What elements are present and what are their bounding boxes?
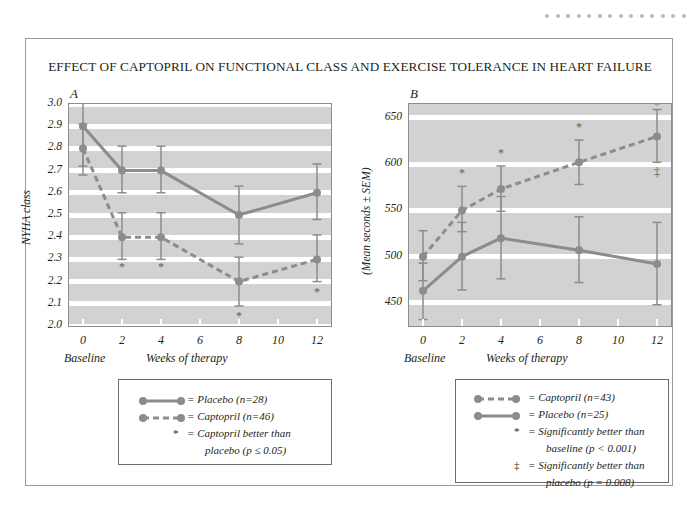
legend-key-ddagger: ‡ <box>514 459 520 471</box>
series-captopril <box>419 110 662 281</box>
x-tick-label: 2 <box>107 333 137 348</box>
legend-key-asterisk: * <box>514 425 520 437</box>
significance-marker: * <box>153 261 169 273</box>
y-tick-label: 2.9 <box>26 118 62 130</box>
x-tick-label: 12 <box>302 333 332 348</box>
significance-marker: * <box>309 286 325 298</box>
decor-dot <box>556 14 560 18</box>
decorative-dot-row <box>545 14 686 18</box>
legend-key-dashed <box>139 412 189 424</box>
series-line <box>423 238 657 291</box>
legend-key-solid <box>139 395 189 407</box>
x-tick <box>422 319 424 326</box>
significance-marker: * <box>649 103 665 111</box>
data-point <box>653 260 661 268</box>
decor-dot <box>629 14 633 18</box>
data-point <box>419 287 427 295</box>
data-point <box>497 234 505 242</box>
x-tick-label: 0 <box>68 333 98 348</box>
x-tick <box>617 319 619 326</box>
plot-area-b: ****‡ <box>408 103 672 327</box>
x-tick-label: 4 <box>146 333 176 348</box>
decor-dot <box>640 14 644 18</box>
x-tick-label: 10 <box>603 333 633 348</box>
y-tick-label: 650 <box>366 110 402 122</box>
significance-marker: * <box>571 121 587 133</box>
data-point <box>157 167 165 175</box>
y-axis-title: NYHA class <box>20 190 32 245</box>
x-tick-label: 0 <box>408 333 438 348</box>
y-tick-label: 3.0 <box>26 96 62 108</box>
x-tick <box>461 319 463 326</box>
panel-letter-a: A <box>70 86 78 102</box>
legend-key-asterisk: * <box>173 427 179 439</box>
significance-marker: * <box>454 167 470 179</box>
data-point <box>118 233 126 241</box>
legend-entry-text: = Captopril (n=46) <box>187 410 274 422</box>
decor-dot <box>619 14 623 18</box>
legend-entry-text: = Captopril better than <box>187 427 291 439</box>
x-tick-label: 10 <box>263 333 293 348</box>
data-point <box>575 158 583 166</box>
x-tick <box>500 319 502 326</box>
significance-marker: * <box>493 147 509 159</box>
y-tick-label: 2.8 <box>26 140 62 152</box>
plot-area-a: **** <box>68 103 332 327</box>
y-tick-label: 2.3 <box>26 251 62 263</box>
x-tick <box>277 319 279 326</box>
data-point <box>313 255 321 263</box>
y-axis-title: (Mean seconds ± SEM) <box>360 167 372 275</box>
x-tick-label: 6 <box>185 333 215 348</box>
baseline-label: Baseline <box>64 351 105 366</box>
x-tick <box>238 319 240 326</box>
data-point <box>653 132 661 140</box>
legend-entry-text: = Placebo (n=25) <box>528 408 608 420</box>
decor-dot <box>671 14 675 18</box>
decor-dot <box>682 14 686 18</box>
legend-entry-text: = Placebo (n=28) <box>187 393 267 405</box>
legend-key-solid <box>474 410 524 422</box>
x-axis-title: Weeks of therapy <box>486 351 568 366</box>
x-tick-label: 8 <box>564 333 594 348</box>
decor-dot <box>608 14 612 18</box>
x-tick-label: 8 <box>224 333 254 348</box>
legend-b: = Captopril (n=43)= Placebo (n=25)= Sign… <box>455 379 669 483</box>
x-tick <box>121 319 123 326</box>
series-layer <box>409 104 671 326</box>
decor-dot <box>545 14 549 18</box>
x-tick-label: 12 <box>642 333 672 348</box>
x-tick-label: 4 <box>486 333 516 348</box>
data-point <box>419 253 427 261</box>
decor-dot <box>650 14 654 18</box>
legend-entry-text: = Significantly better than <box>528 425 645 437</box>
legend-entry-text: = Captopril (n=43) <box>528 391 615 403</box>
y-tick-label: 2.1 <box>26 296 62 308</box>
decor-dot <box>566 14 570 18</box>
legend-entry-text: placebo (p ≤ 0.05) <box>205 444 286 456</box>
x-tick-label: 6 <box>525 333 555 348</box>
decor-dot <box>598 14 602 18</box>
x-tick <box>578 319 580 326</box>
x-tick-label: 2 <box>447 333 477 348</box>
panel-letter-b: B <box>410 86 418 102</box>
y-tick-label: 2.0 <box>26 318 62 330</box>
series-line <box>423 136 657 256</box>
data-point <box>313 189 321 197</box>
series-placebo <box>419 197 662 320</box>
significance-marker: ‡ <box>649 166 665 178</box>
data-point <box>235 211 243 219</box>
decor-dot <box>577 14 581 18</box>
y-tick-label: 2.7 <box>26 163 62 175</box>
y-tick-label: 2.2 <box>26 274 62 286</box>
legend-entry-text: placebo (p = 0.008) <box>546 476 634 488</box>
data-point <box>458 206 466 214</box>
x-tick <box>199 319 201 326</box>
figure-title: EFFECT OF CAPTOPRIL ON FUNCTIONAL CLASS … <box>26 59 674 75</box>
x-axis-title: Weeks of therapy <box>146 351 228 366</box>
legend-key-dashed <box>474 393 524 405</box>
series-captopril <box>79 124 322 306</box>
data-point <box>497 185 505 193</box>
data-point <box>79 144 87 152</box>
x-tick <box>316 319 318 326</box>
x-tick <box>82 319 84 326</box>
